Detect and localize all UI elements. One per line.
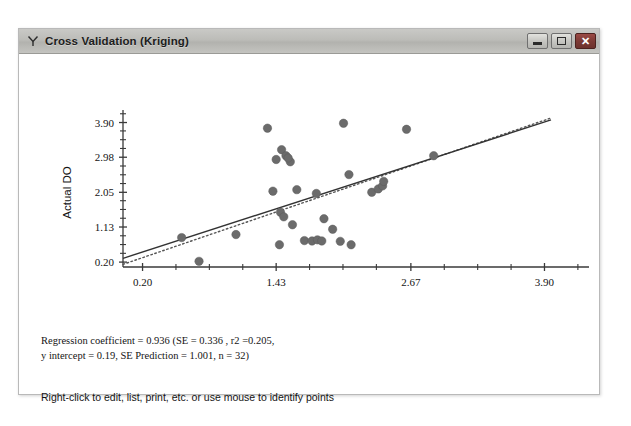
y-axis-tick-label: 1.13 — [95, 221, 115, 233]
close-button[interactable]: ✕ — [575, 33, 596, 49]
scatter-point[interactable] — [288, 221, 296, 229]
x-axis-tick-label: 1.43 — [267, 276, 287, 288]
scatter-point[interactable] — [280, 213, 288, 221]
scatter-point[interactable] — [328, 225, 336, 233]
scatter-point[interactable] — [263, 124, 271, 132]
window-title: Cross Validation (Kriging) — [45, 35, 524, 47]
scatter-point[interactable] — [402, 125, 410, 133]
scatter-point[interactable] — [312, 189, 320, 197]
scatter-point[interactable] — [272, 155, 280, 163]
x-axis-tick-label: 2.67 — [401, 276, 421, 288]
y-axis-tick-label: 2.98 — [95, 151, 115, 163]
scatter-point[interactable] — [380, 177, 388, 185]
scatter-point[interactable] — [293, 185, 301, 193]
scatter-point[interactable] — [345, 170, 353, 178]
scatter-point[interactable] — [300, 236, 308, 244]
cross-validation-scatter-plot[interactable]: 0.201.432.673.900.201.132.052.983.90Esti… — [19, 54, 601, 299]
regression-fit-line — [123, 120, 551, 258]
maximize-button[interactable] — [551, 33, 572, 49]
scatter-point[interactable] — [339, 119, 347, 127]
title-bar[interactable]: Cross Validation (Kriging) ✕ — [19, 29, 599, 54]
maximize-icon — [557, 37, 566, 45]
scatter-point[interactable] — [336, 237, 344, 245]
regression-statistics: Regression coefficient = 0.936 (SE = 0.3… — [41, 333, 471, 363]
regression-stats-line-2: y intercept = 0.19, SE Prediction = 1.00… — [41, 348, 471, 363]
y-axis-tick-label: 3.90 — [95, 117, 115, 129]
scatter-points-group — [177, 119, 437, 265]
y-shaped-icon — [26, 34, 40, 48]
scatter-point[interactable] — [320, 215, 328, 223]
chart-canvas[interactable]: 0.201.432.673.900.201.132.052.983.90Esti… — [19, 54, 601, 299]
close-icon: ✕ — [581, 36, 590, 47]
scatter-point[interactable] — [269, 187, 277, 195]
scatter-point[interactable] — [347, 241, 355, 249]
client-area: 0.201.432.673.900.201.132.052.983.90Esti… — [19, 54, 599, 394]
scatter-point[interactable] — [284, 154, 292, 162]
scatter-point[interactable] — [275, 241, 283, 249]
scatter-point[interactable] — [195, 257, 203, 265]
scatter-point[interactable] — [429, 152, 437, 160]
scatter-point[interactable] — [318, 237, 326, 245]
context-hint-text: Right-click to edit, list, print, etc. o… — [41, 391, 334, 403]
minimize-icon — [533, 42, 542, 45]
scatter-point[interactable] — [177, 233, 185, 241]
regression-stats-line-1: Regression coefficient = 0.936 (SE = 0.3… — [41, 333, 471, 348]
scatter-point[interactable] — [232, 230, 240, 238]
y-axis-tick-label: 2.05 — [95, 186, 115, 198]
y-axis-tick-label: 0.20 — [95, 256, 115, 268]
minimize-button[interactable] — [527, 33, 548, 49]
x-axis-tick-label: 0.20 — [133, 276, 153, 288]
y-axis-title: Actual DO — [61, 166, 73, 218]
x-axis-tick-label: 3.90 — [535, 276, 555, 288]
cross-validation-window: Cross Validation (Kriging) ✕ 0.201.432.6… — [18, 28, 600, 395]
